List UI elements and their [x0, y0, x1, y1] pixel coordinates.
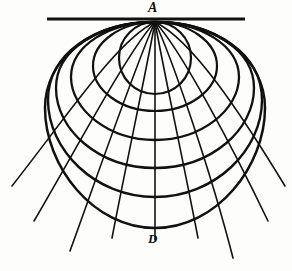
meridian-left-4 [34, 22, 155, 221]
label-point-d: D [148, 232, 157, 245]
diagram-canvas [0, 0, 292, 271]
label-point-a: A [148, 1, 157, 15]
projection-diagram: A D [0, 0, 292, 271]
